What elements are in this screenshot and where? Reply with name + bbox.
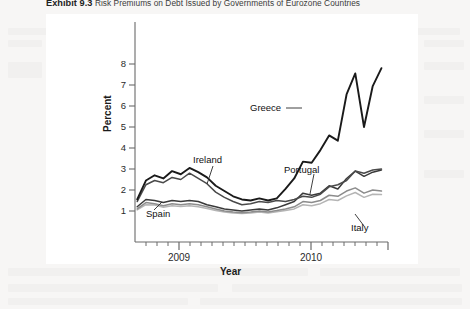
- exhibit-number: Exhibit 9.3: [46, 0, 93, 8]
- series-label-italy: Italy: [351, 222, 368, 233]
- series-label-ireland: Ireland: [193, 154, 222, 165]
- page-ghost-text: [8, 62, 42, 78]
- xtick-label-2010: 2010: [291, 252, 331, 263]
- xtick-label-2009: 2009: [159, 252, 199, 263]
- page-ghost-text: [8, 284, 218, 292]
- page-ghost-text: [424, 62, 464, 70]
- page-ghost-text: [424, 130, 464, 138]
- series-label-greece: Greece: [250, 102, 281, 113]
- page-ghost-text: [424, 40, 464, 47]
- page-ghost-text: [8, 298, 188, 305]
- page-ghost-text: [320, 268, 460, 276]
- portugal-leader: [310, 174, 314, 194]
- chart-panel: 8 7 6 5 4 3 2 1 2009 2010 Percent Year G…: [46, 14, 418, 264]
- ytick-label-1: 1: [110, 205, 126, 216]
- y-axis-title: Percent: [102, 95, 113, 132]
- page-ghost-text: [424, 170, 464, 178]
- exhibit-page: Exhibit 9.3 Risk Premiums on Debt Issued…: [0, 0, 470, 309]
- page-ghost-text: [424, 96, 464, 104]
- series-paths: [137, 68, 381, 213]
- x-axis-title: Year: [220, 266, 241, 277]
- series-label-portugal: Portugal: [284, 164, 319, 175]
- x-axis-ticks: [146, 242, 388, 250]
- page-ghost-text: [8, 268, 308, 276]
- page-ghost-text: [232, 284, 462, 292]
- series-line-portugal: [137, 170, 381, 211]
- exhibit-caption-text: Risk Premiums on Debt Issued by Governme…: [95, 0, 360, 8]
- exhibit-caption: Exhibit 9.3 Risk Premiums on Debt Issued…: [46, 0, 466, 11]
- y-axis-ticks: [129, 64, 135, 211]
- ytick-label-2: 2: [110, 184, 126, 195]
- ytick-label-7: 7: [110, 79, 126, 90]
- ytick-label-8: 8: [110, 58, 126, 69]
- page-ghost-text: [200, 298, 462, 305]
- page-ghost-text: [8, 40, 42, 47]
- ytick-label-4: 4: [110, 142, 126, 153]
- series-label-spain: Spain: [146, 208, 170, 219]
- ytick-label-3: 3: [110, 163, 126, 174]
